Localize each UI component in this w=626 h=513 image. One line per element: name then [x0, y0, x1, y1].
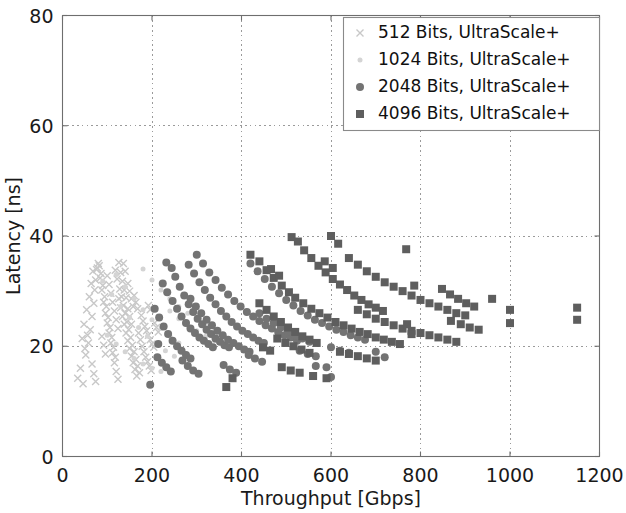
data-point: [98, 333, 105, 340]
y-tick-label: 40: [29, 225, 53, 247]
data-point: [127, 315, 132, 320]
data-point: [171, 273, 179, 281]
data-point: [343, 286, 351, 294]
data-series-0: [74, 259, 162, 387]
data-point: [190, 269, 198, 277]
data-point: [573, 316, 581, 324]
data-point: [113, 368, 120, 375]
legend-label: 1024 Bits, UltraScale+: [378, 49, 571, 69]
data-point: [396, 340, 404, 348]
data-point: [348, 325, 356, 333]
data-point: [284, 324, 292, 332]
data-point: [140, 348, 147, 355]
data-point: [475, 326, 483, 334]
data-point: [506, 306, 514, 314]
x-axis-tick-labels: 020040060080010001200: [56, 464, 623, 486]
data-point: [287, 367, 295, 375]
data-point: [255, 299, 263, 307]
data-point: [186, 354, 194, 362]
data-point: [168, 264, 176, 272]
data-series-group: [74, 232, 581, 391]
y-tick-label: 0: [41, 446, 53, 468]
data-point: [167, 308, 172, 313]
data-point: [354, 306, 362, 314]
data-point: [275, 289, 283, 297]
data-point: [327, 232, 335, 240]
y-axis-title: Latency [ns]: [2, 177, 24, 295]
data-point: [90, 300, 97, 307]
data-point: [379, 307, 387, 315]
data-point: [118, 304, 123, 309]
data-point: [77, 365, 84, 372]
data-point: [299, 299, 307, 307]
data-point: [294, 238, 302, 246]
data-point: [154, 340, 162, 348]
data-point: [372, 348, 380, 356]
data-point: [402, 245, 410, 253]
data-point: [315, 309, 323, 317]
data-point: [151, 305, 159, 313]
data-point: [172, 354, 177, 359]
data-point: [282, 296, 290, 304]
data-point: [381, 278, 389, 286]
data-point: [114, 376, 121, 383]
data-point: [173, 305, 181, 313]
data-point: [323, 314, 331, 322]
scatter-plot-figure: 020406080 020040060080010001200 Throughp…: [0, 0, 626, 513]
data-point: [506, 319, 514, 327]
data-point: [356, 328, 364, 336]
data-point: [158, 369, 163, 374]
data-point: [195, 278, 203, 286]
data-point: [113, 316, 120, 323]
data-point: [434, 333, 442, 341]
data-point: [206, 294, 214, 302]
data-point: [340, 321, 348, 329]
data-point: [363, 354, 371, 362]
data-point: [470, 303, 478, 311]
data-point: [390, 321, 398, 329]
data-point: [297, 307, 305, 315]
data-point: [307, 254, 315, 262]
data-point: [291, 294, 299, 302]
data-point: [329, 275, 337, 283]
data-point: [222, 383, 230, 391]
data-point: [186, 295, 194, 303]
y-tick-label: 20: [29, 335, 53, 357]
data-point: [114, 325, 121, 332]
data-point: [192, 303, 200, 311]
data-point: [82, 352, 89, 359]
data-point: [278, 363, 286, 371]
data-point: [89, 360, 96, 367]
data-point: [323, 374, 331, 382]
data-point: [195, 370, 203, 378]
data-point: [169, 297, 177, 305]
data-point: [443, 336, 451, 344]
data-point: [381, 353, 389, 361]
data-point: [488, 295, 496, 303]
data-point: [336, 281, 344, 289]
data-point: [277, 318, 285, 326]
x-tick-label: 1000: [486, 464, 534, 486]
data-point: [185, 261, 193, 269]
data-point: [89, 313, 96, 320]
data-point: [123, 284, 128, 289]
data-point: [332, 326, 340, 334]
data-point: [268, 283, 276, 291]
data-point: [140, 317, 147, 324]
data-point: [111, 307, 118, 314]
data-point: [197, 309, 205, 317]
data-point: [466, 324, 474, 332]
data-point: [90, 370, 97, 377]
data-point: [434, 303, 442, 311]
data-point: [390, 283, 398, 291]
data-point: [138, 312, 145, 319]
data-point: [163, 348, 168, 353]
data-point: [354, 352, 362, 360]
data-point: [454, 295, 462, 303]
data-point: [212, 300, 220, 308]
data-point: [372, 357, 380, 365]
data-point: [109, 299, 116, 306]
data-point: [334, 240, 342, 248]
data-point: [135, 330, 142, 337]
data-point: [357, 296, 365, 304]
